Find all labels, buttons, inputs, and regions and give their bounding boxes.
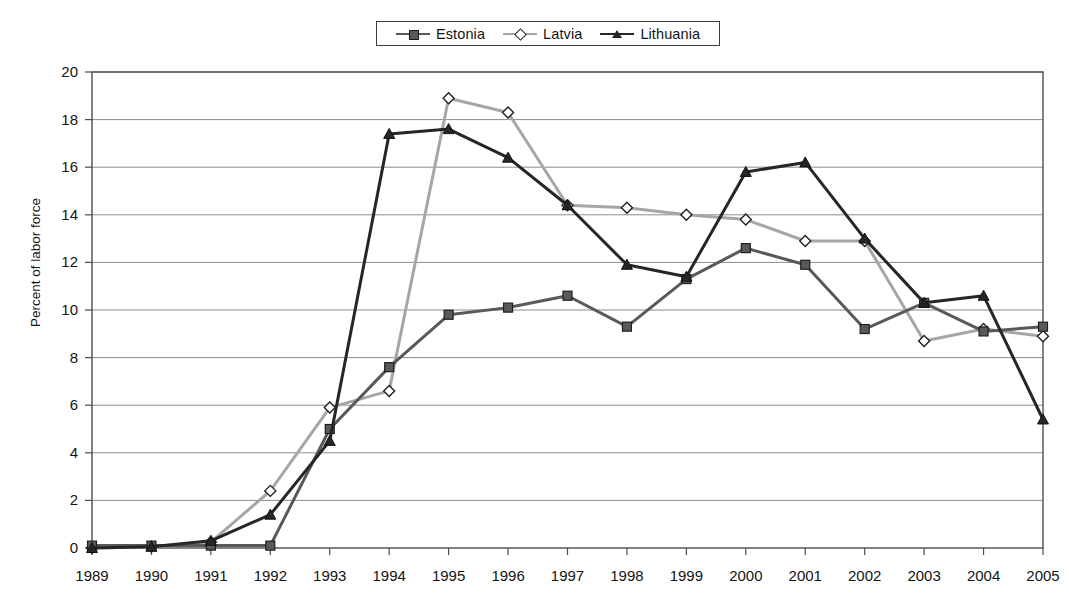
legend-key-diamond-icon <box>503 27 537 41</box>
legend-item-estonia[interactable]: Estonia <box>396 26 485 42</box>
y-tick-label: 4 <box>36 445 78 460</box>
x-tick-label: 1999 <box>656 568 716 583</box>
y-tick-label: 2 <box>36 492 78 507</box>
y-tick-label: 10 <box>36 302 78 317</box>
x-tick-label: 2000 <box>716 568 776 583</box>
y-tick-label: 14 <box>36 207 78 222</box>
x-tick-label: 2002 <box>835 568 895 583</box>
x-tick-label: 1995 <box>419 568 479 583</box>
x-tick-label: 1993 <box>300 568 360 583</box>
legend-label-latvia: Latvia <box>543 26 582 42</box>
y-tick-label: 0 <box>36 540 78 555</box>
x-tick-label: 1996 <box>478 568 538 583</box>
data-point-square <box>979 327 988 336</box>
x-tick-label: 1989 <box>62 568 122 583</box>
y-tick-label: 16 <box>36 159 78 174</box>
data-point-square <box>741 244 750 253</box>
x-tick-label: 1992 <box>240 568 300 583</box>
x-tick-label: 1990 <box>121 568 181 583</box>
legend-label-lithuania: Lithuania <box>640 26 700 42</box>
y-tick-label: 8 <box>36 350 78 365</box>
plot-area <box>0 0 1069 608</box>
x-tick-label: 1994 <box>359 568 419 583</box>
legend-item-latvia[interactable]: Latvia <box>503 26 582 42</box>
y-tick-label: 12 <box>36 254 78 269</box>
y-tick-label: 18 <box>36 112 78 127</box>
x-tick-label: 1991 <box>181 568 241 583</box>
data-point-square <box>563 291 572 300</box>
data-point-square <box>860 325 869 334</box>
x-tick-label: 1998 <box>597 568 657 583</box>
data-point-square <box>801 260 810 269</box>
x-tick-label: 2004 <box>954 568 1014 583</box>
legend-key-triangle-icon <box>600 27 634 41</box>
data-point-square <box>444 310 453 319</box>
data-point-square <box>385 363 394 372</box>
x-tick-label: 2001 <box>775 568 835 583</box>
legend-key-square-icon <box>396 27 430 41</box>
data-point-square <box>504 303 513 312</box>
line-chart: Estonia Latvia Lithuania Percent of labo… <box>0 0 1069 608</box>
x-tick-label: 2003 <box>894 568 954 583</box>
chart-legend: Estonia Latvia Lithuania <box>376 21 720 46</box>
data-point-square <box>622 322 631 331</box>
y-tick-label: 6 <box>36 397 78 412</box>
x-tick-label: 2005 <box>1013 568 1069 583</box>
legend-item-lithuania[interactable]: Lithuania <box>600 26 700 42</box>
data-point-square <box>1039 322 1048 331</box>
legend-label-estonia: Estonia <box>436 26 485 42</box>
x-tick-label: 1997 <box>538 568 598 583</box>
y-tick-label: 20 <box>36 64 78 79</box>
data-point-square <box>266 541 275 550</box>
